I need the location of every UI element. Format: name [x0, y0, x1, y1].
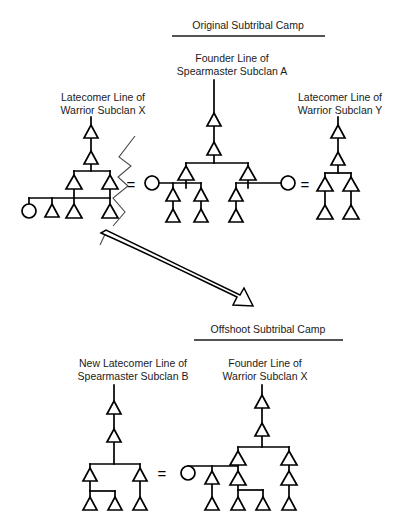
male-symbol	[282, 497, 296, 510]
male-symbol	[331, 125, 345, 138]
fission-arrow	[101, 230, 253, 306]
caption-line: Founder Line of	[195, 52, 269, 64]
caption-line: Founder Line of	[228, 357, 302, 369]
svg-text:New Latecomer Line ofSpearmast: New Latecomer Line ofSpearmaster Subclan…	[78, 357, 189, 382]
male-symbol	[45, 204, 59, 217]
male-symbol	[317, 205, 333, 219]
header-offshoot-label: Offshoot Subtribal Camp	[211, 323, 326, 335]
male-symbol	[317, 177, 333, 191]
group-top-right-warrior-y	[317, 117, 359, 219]
male-symbol	[229, 188, 243, 201]
male-symbol	[102, 175, 118, 189]
male-symbol	[66, 175, 82, 189]
male-symbol	[207, 113, 221, 126]
group-bottom-right-warrior-x	[181, 385, 297, 510]
male-symbol	[231, 497, 245, 510]
header-original-subtribal-camp: Original Subtribal Camp	[172, 19, 325, 36]
caption-latecomer-line-warrior-x: Latecomer Line ofWarrior Subclan X	[61, 91, 146, 116]
marriage-equals-sign: =	[301, 176, 310, 193]
male-symbol	[343, 177, 359, 191]
male-symbol	[255, 423, 269, 436]
male-symbol	[133, 497, 147, 510]
marriage-equals-sign: =	[158, 465, 167, 482]
female-symbol	[145, 176, 159, 190]
caption-founder-line-warrior-x: Founder Line ofWarrior Subclan X	[223, 357, 308, 382]
svg-text:Latecomer Line ofWarrior Subcl: Latecomer Line ofWarrior Subclan X	[61, 91, 146, 116]
male-symbol	[102, 204, 118, 218]
svg-text:Latecomer Line ofWarrior Subcl: Latecomer Line ofWarrior Subclan Y	[298, 91, 383, 116]
caption-line: Latecomer Line of	[298, 91, 382, 103]
female-symbol	[181, 466, 195, 480]
kinship-diagram: Original Subtribal Camp Offshoot Subtrib…	[0, 0, 408, 531]
male-symbol	[205, 471, 219, 484]
male-symbol	[133, 468, 147, 481]
male-symbol	[83, 497, 97, 510]
male-symbol	[194, 209, 208, 222]
caption-new-latecomer-line-spearmaster-b: New Latecomer Line ofSpearmaster Subclan…	[78, 357, 189, 382]
male-symbol	[83, 468, 97, 481]
male-symbol	[166, 209, 180, 222]
male-symbol	[230, 471, 246, 485]
male-symbol	[108, 497, 122, 510]
caption-line: Spearmaster Subclan A	[177, 65, 287, 77]
male-symbol	[331, 152, 345, 165]
group-bottom-left-spearmaster-b	[83, 385, 147, 510]
female-symbol	[22, 204, 36, 218]
male-symbol	[281, 471, 297, 485]
caption-line: Latecomer Line of	[61, 91, 145, 103]
male-symbol	[84, 151, 98, 164]
caption-latecomer-line-warrior-y: Latecomer Line ofWarrior Subclan Y	[298, 91, 383, 116]
male-symbol	[194, 188, 208, 201]
header-offshoot-subtribal-camp: Offshoot Subtribal Camp	[194, 323, 343, 340]
caption-line: New Latecomer Line of	[79, 357, 187, 369]
male-symbol	[166, 188, 180, 201]
marriage-equals-sign: =	[127, 176, 136, 193]
caption-founder-line-spearmaster-a: Founder Line ofSpearmaster Subclan A	[177, 52, 287, 77]
male-symbol	[255, 395, 269, 408]
svg-text:Founder Line ofWarrior Subclan: Founder Line ofWarrior Subclan X	[223, 357, 308, 382]
male-symbol	[207, 142, 221, 155]
male-symbol	[230, 451, 246, 465]
male-symbol	[107, 401, 121, 414]
male-symbol	[107, 429, 121, 442]
group-top-left-warrior-x	[22, 117, 118, 218]
male-symbol	[84, 125, 98, 138]
male-symbol	[240, 166, 256, 180]
group-top-center-spearmaster-a	[145, 80, 295, 222]
caption-line: Warrior Subclan X	[223, 370, 308, 382]
male-symbol	[256, 497, 270, 510]
male-symbol	[178, 166, 194, 180]
caption-line: Warrior Subclan X	[61, 104, 146, 116]
male-symbol	[66, 204, 82, 218]
male-symbol	[229, 209, 243, 222]
svg-text:Founder Line ofSpearmaster Sub: Founder Line ofSpearmaster Subclan A	[177, 52, 287, 77]
header-original-label: Original Subtribal Camp	[192, 19, 304, 31]
female-symbol	[281, 176, 295, 190]
male-symbol	[205, 497, 219, 510]
caption-line: Spearmaster Subclan B	[78, 370, 189, 382]
male-symbol	[281, 451, 297, 465]
caption-line: Warrior Subclan Y	[298, 104, 383, 116]
male-symbol	[343, 205, 359, 219]
